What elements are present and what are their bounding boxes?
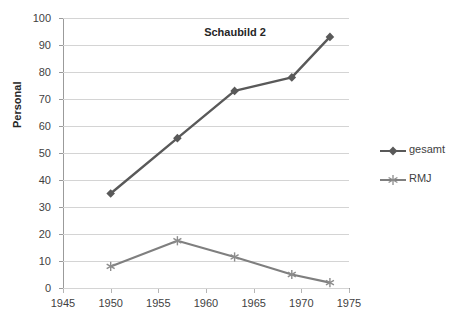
plot-area <box>63 18 349 288</box>
y-axis-tick-label: 10 <box>11 256 51 267</box>
x-axis-tick <box>111 289 112 293</box>
x-axis-tick <box>158 289 159 293</box>
series-line-rmj <box>111 241 330 283</box>
x-axis-tick <box>206 289 207 293</box>
y-axis-tick-label: 20 <box>11 229 51 240</box>
y-axis-tick-label: 0 <box>11 283 51 294</box>
y-axis-tick-label: 70 <box>11 94 51 105</box>
x-axis-tick <box>254 289 255 293</box>
x-axis-tick-label: 1960 <box>186 298 226 309</box>
chart-legend: gesamt RMJ <box>379 139 467 197</box>
legend-label-gesamt: gesamt <box>409 143 445 156</box>
x-axis-tick-label: 1965 <box>234 298 274 309</box>
x-axis-tick <box>301 289 302 293</box>
y-axis-tick-label: 40 <box>11 175 51 186</box>
x-axis-tick-label: 1950 <box>91 298 131 309</box>
legend-marker-diamond-icon <box>379 144 407 158</box>
x-axis-tick <box>63 289 64 293</box>
x-axis-tick-label: 1975 <box>329 298 369 309</box>
y-axis-tick-label: 100 <box>11 13 51 24</box>
x-axis-tick-label: 1945 <box>43 298 83 309</box>
legend-item-gesamt[interactable]: gesamt <box>379 139 467 168</box>
legend-label-rmj: RMJ <box>409 172 432 185</box>
series-line-gesamt <box>111 37 330 194</box>
y-axis-tick-label: 50 <box>11 148 51 159</box>
y-axis-tick-label: 90 <box>11 40 51 51</box>
x-axis-tick-label: 1955 <box>138 298 178 309</box>
y-axis-tick-label: 80 <box>11 67 51 78</box>
x-axis-tick-label: 1970 <box>281 298 321 309</box>
x-axis-tick <box>349 289 350 293</box>
series-layer <box>63 18 349 288</box>
chart-container: Schaubild 2 Personal 0102030405060708090… <box>0 0 472 323</box>
y-axis-tick-label: 30 <box>11 202 51 213</box>
legend-item-rmj[interactable]: RMJ <box>379 168 467 197</box>
y-axis-tick-label: 60 <box>11 121 51 132</box>
legend-marker-asterisk-icon <box>379 173 407 187</box>
